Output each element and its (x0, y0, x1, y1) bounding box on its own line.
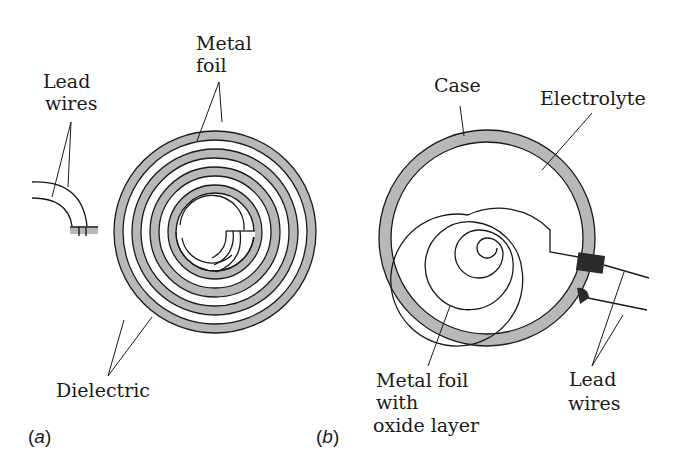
electrolyte-label: Electrolyte (540, 87, 646, 109)
panel-a-label: (a) (28, 426, 51, 447)
metal-foil-oxide-label-line2: with (376, 391, 418, 413)
dielectric-label: Dielectric (56, 379, 150, 401)
metal-foil-oxide-label-line1: Metal foil (376, 369, 468, 391)
metal-foil-label-line2: foil (196, 54, 227, 76)
lead-wires-label-b-line2: wires (568, 392, 620, 414)
lead-wires-label-line2: wires (45, 92, 97, 114)
panel-b-label: (b) (316, 426, 339, 447)
lead-wires-label-line1: Lead (43, 70, 90, 92)
metal-foil-label-line1: Metal (196, 32, 252, 54)
panel-a-rolled-capacitor: Lead wires Metal foil Dielectric (a) (28, 32, 316, 447)
metal-foil-spiral (114, 131, 316, 333)
case-label: Case (434, 74, 481, 96)
lead-wire-terminal-left (32, 182, 98, 236)
metal-foil-oxide-label-line3: oxide layer (373, 414, 480, 436)
panel-b-electrolytic-capacitor: Case Electrolyte Metal foil with oxide l… (316, 74, 649, 447)
lead-wire-terminals-right (576, 252, 649, 310)
lead-wires-label-b-line1: Lead (569, 368, 616, 390)
capacitor-figure: Lead wires Metal foil Dielectric (a) (0, 0, 689, 471)
